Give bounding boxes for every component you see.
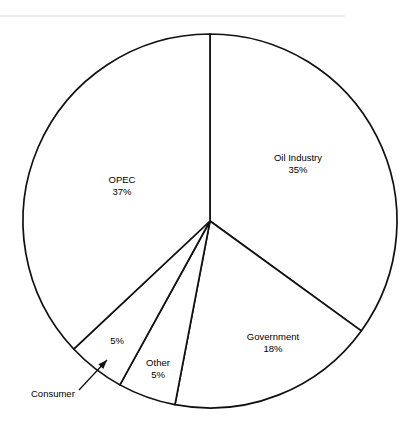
pie-slice-name: OPEC xyxy=(109,174,136,185)
pie-slice-label: 5% xyxy=(110,335,124,346)
pie-chart-figure: Oil Industry35%Government18%Other5%5%OPE… xyxy=(0,0,416,447)
pie-slice-group xyxy=(23,34,397,408)
pie-slice-value: 5% xyxy=(151,369,165,380)
pie-slice-value: 5% xyxy=(110,335,124,346)
pie-slice-name: Oil Industry xyxy=(274,152,322,163)
callout-label-consumer: Consumer xyxy=(31,388,75,399)
pie-slice-value: 18% xyxy=(263,343,283,354)
pie-chart-canvas: Oil Industry35%Government18%Other5%5%OPE… xyxy=(0,0,416,447)
pie-slice-value: 35% xyxy=(288,164,308,175)
pie-slice-value: 37% xyxy=(112,186,132,197)
pie-slice-name: Government xyxy=(247,331,300,342)
pie-slice-name: Other xyxy=(146,357,170,368)
